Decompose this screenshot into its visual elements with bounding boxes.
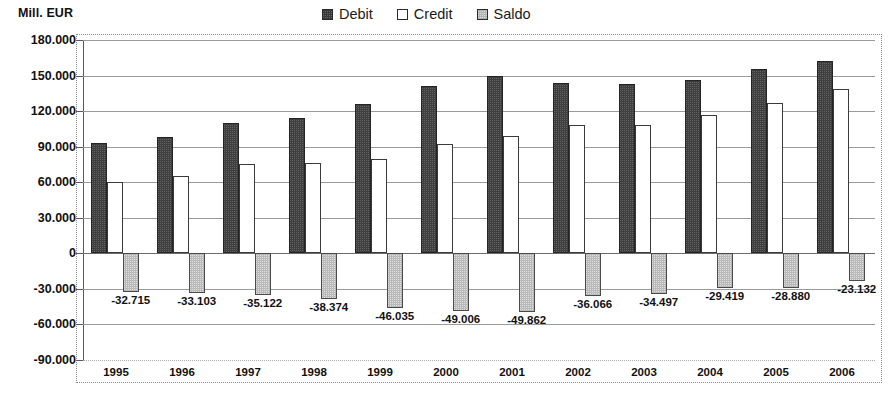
x-axis-label-1996: 1996 xyxy=(169,366,195,378)
y-axis-tick-label: 120.000 xyxy=(31,104,76,118)
bar-debit-2003[interactable] xyxy=(619,84,635,253)
bar-saldo-1998[interactable] xyxy=(321,253,337,298)
bar-group-1995: -32.715 xyxy=(83,40,149,360)
bar-credit-2005[interactable] xyxy=(767,103,783,254)
bar-group-1998: -38.374 xyxy=(281,40,347,360)
bar-debit-1998[interactable] xyxy=(289,118,305,254)
bar-group-2003: -34.497 xyxy=(611,40,677,360)
legend-label: Debit xyxy=(339,6,373,22)
y-axis-tick-label: 90.000 xyxy=(38,140,76,154)
legend-item-credit[interactable]: Credit xyxy=(397,6,453,22)
bar-saldo-1995[interactable] xyxy=(123,253,139,292)
bar-saldo-1996[interactable] xyxy=(189,253,205,292)
bar-debit-2006[interactable] xyxy=(817,61,833,253)
y-tick xyxy=(76,218,83,219)
white-outline-square-icon xyxy=(397,9,408,20)
bar-group-1999: -46.035 xyxy=(347,40,413,360)
bar-debit-1999[interactable] xyxy=(355,104,371,253)
bar-chart: Mill. EUR DebitCreditSaldo 180.000150.00… xyxy=(0,0,890,394)
y-axis-tick-label: -30.000 xyxy=(34,282,76,296)
y-axis-tick-label: 60.000 xyxy=(38,175,76,189)
x-axis-label-2003: 2003 xyxy=(631,366,657,378)
x-axis-labels: 1995199619971998199920002001200220032004… xyxy=(83,363,875,387)
x-axis-label-2002: 2002 xyxy=(565,366,591,378)
y-tick xyxy=(76,111,83,112)
bar-group-2006: -23.132 xyxy=(809,40,875,360)
bar-credit-1997[interactable] xyxy=(239,164,255,253)
bar-value-label-saldo-2006: -23.132 xyxy=(827,283,887,295)
bar-credit-1995[interactable] xyxy=(107,182,123,253)
y-axis-labels: 180.000150.000120.00090.00060.00030.0000… xyxy=(0,40,76,360)
bar-saldo-2006[interactable] xyxy=(849,253,865,280)
bar-debit-1997[interactable] xyxy=(223,123,239,254)
bar-credit-2000[interactable] xyxy=(437,144,453,253)
y-axis-tick-label: 180.000 xyxy=(31,33,76,47)
bar-debit-2000[interactable] xyxy=(421,86,437,253)
x-axis-label-1999: 1999 xyxy=(367,366,393,378)
bar-group-2004: -29.419 xyxy=(677,40,743,360)
x-axis-label-1998: 1998 xyxy=(301,366,327,378)
bar-saldo-2005[interactable] xyxy=(783,253,799,287)
y-axis-title: Mill. EUR xyxy=(18,6,73,20)
y-tick xyxy=(76,182,83,183)
plot-area: -32.715-33.103-35.122-38.374-46.035-49.0… xyxy=(83,40,875,360)
y-tick xyxy=(76,360,83,361)
bar-group-2005: -28.880 xyxy=(743,40,809,360)
chart-legend: DebitCreditSaldo xyxy=(322,6,531,22)
legend-item-debit[interactable]: Debit xyxy=(322,6,373,22)
bar-saldo-2004[interactable] xyxy=(717,253,733,288)
y-tick xyxy=(76,76,83,77)
x-axis-label-2001: 2001 xyxy=(499,366,525,378)
bar-group-2002: -36.066 xyxy=(545,40,611,360)
bar-debit-2005[interactable] xyxy=(751,69,767,254)
y-axis-tick-label: 150.000 xyxy=(31,69,76,83)
bar-credit-2002[interactable] xyxy=(569,125,585,253)
bar-credit-2004[interactable] xyxy=(701,115,717,254)
y-axis-tick-label: -60.000 xyxy=(34,317,76,331)
x-axis-label-2004: 2004 xyxy=(697,366,723,378)
y-tick xyxy=(76,289,83,290)
bar-debit-2002[interactable] xyxy=(553,83,569,254)
bar-credit-2006[interactable] xyxy=(833,89,849,254)
bar-saldo-2001[interactable] xyxy=(519,253,535,312)
bar-group-1997: -35.122 xyxy=(215,40,281,360)
y-tick xyxy=(76,40,83,41)
bar-credit-1998[interactable] xyxy=(305,163,321,253)
bar-credit-2001[interactable] xyxy=(503,136,519,253)
bar-group-1996: -33.103 xyxy=(149,40,215,360)
legend-label: Saldo xyxy=(494,6,531,22)
bar-saldo-1997[interactable] xyxy=(255,253,271,295)
bar-debit-2001[interactable] xyxy=(487,76,503,254)
x-axis-label-2006: 2006 xyxy=(829,366,855,378)
y-axis-tick-label: 30.000 xyxy=(38,211,76,225)
bar-credit-1996[interactable] xyxy=(173,176,189,253)
x-axis-label-2005: 2005 xyxy=(763,366,789,378)
bar-saldo-2002[interactable] xyxy=(585,253,601,296)
y-tick xyxy=(76,147,83,148)
gray-filled-square-icon xyxy=(477,9,488,20)
bar-debit-1996[interactable] xyxy=(157,137,173,253)
y-axis-tick-label: -90.000 xyxy=(34,353,76,367)
dark-filled-square-icon xyxy=(322,9,333,20)
bar-saldo-1999[interactable] xyxy=(387,253,403,308)
x-axis-label-1995: 1995 xyxy=(103,366,129,378)
bar-debit-2004[interactable] xyxy=(685,80,701,254)
bar-credit-1999[interactable] xyxy=(371,159,387,254)
bar-debit-1995[interactable] xyxy=(91,143,107,253)
legend-item-saldo[interactable]: Saldo xyxy=(477,6,531,22)
gridline-neg90000 xyxy=(83,360,875,361)
y-axis-tick-label: 0 xyxy=(69,246,76,260)
bars-layer: -32.715-33.103-35.122-38.374-46.035-49.0… xyxy=(83,40,875,360)
bar-saldo-2000[interactable] xyxy=(453,253,469,311)
bar-saldo-2003[interactable] xyxy=(651,253,667,294)
legend-label: Credit xyxy=(414,6,453,22)
bar-group-2000: -49.006 xyxy=(413,40,479,360)
y-tick xyxy=(76,253,83,254)
bar-group-2001: -49.862 xyxy=(479,40,545,360)
bar-credit-2003[interactable] xyxy=(635,125,651,253)
y-tick xyxy=(76,324,83,325)
x-axis-label-1997: 1997 xyxy=(235,366,261,378)
x-axis-label-2000: 2000 xyxy=(433,366,459,378)
